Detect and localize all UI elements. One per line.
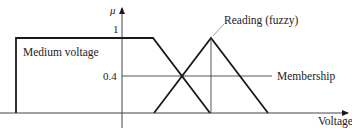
reading-leader-line [213, 24, 224, 36]
x-axis-label: Voltage [318, 115, 352, 128]
membership-label: Membership [277, 70, 335, 83]
tick-label-1: 1 [113, 23, 119, 35]
tick-label-0-4: 0.4 [103, 70, 117, 82]
medium-voltage-label: Medium voltage [23, 46, 99, 59]
reading-fuzzy-label: Reading (fuzzy) [224, 14, 299, 27]
y-axis-label: μ [109, 4, 116, 16]
fuzzy-membership-diagram: μ 1 0.4 Medium voltage Reading (fuzzy) M… [0, 0, 352, 128]
intersection-point [181, 75, 184, 78]
